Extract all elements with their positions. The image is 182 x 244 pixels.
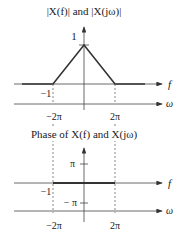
magnitude-title: |X(f)| and |X(jω)|: [47, 5, 122, 18]
neg-pi-label: − π: [64, 197, 77, 208]
f-axis-label: f: [168, 78, 173, 90]
pi-label: π: [70, 158, 75, 169]
phase-title: Phase of X(f) and X(jω): [31, 128, 138, 141]
omega-tick-two-pi: 2π: [110, 111, 120, 122]
omega-tick-neg-two-pi: −2π: [46, 111, 62, 122]
magnitude-curve: [22, 45, 145, 84]
phase-omega-tick-two-pi: 2π: [110, 220, 120, 231]
magnitude-plot: |X(f)| and |X(jω)| 1 f ω −1 −2π 2π: [14, 5, 173, 122]
fourier-transform-diagram: |X(f)| and |X(jω)| 1 f ω −1 −2π 2π Phase…: [0, 0, 182, 244]
phase-omega-tick-neg-two-pi: −2π: [46, 220, 62, 231]
peak-label: 1: [71, 30, 77, 42]
phase-f-tick-neg-one: −1: [41, 186, 52, 197]
omega-axis-label: ω: [166, 98, 173, 109]
phase-plot: Phase of X(f) and X(jω) π − π f ω −1 −2π…: [14, 124, 173, 231]
phase-omega-axis-label: ω: [166, 205, 173, 216]
f-tick-neg-one: −1: [41, 88, 52, 99]
phase-f-axis-label: f: [168, 177, 173, 189]
